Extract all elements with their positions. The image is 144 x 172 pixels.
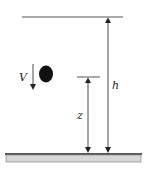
h-label: h <box>112 79 119 92</box>
z-label: z <box>76 109 83 122</box>
falling-ball <box>39 66 53 83</box>
velocity-label: V <box>19 71 28 84</box>
h-dimension-arrow <box>105 18 111 154</box>
ground-surface <box>5 153 142 162</box>
falling-object-diagram: h z V <box>0 0 144 172</box>
z-dimension-arrow <box>85 78 91 154</box>
velocity-arrow-icon <box>30 64 36 90</box>
